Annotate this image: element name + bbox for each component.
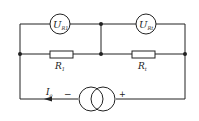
- junction-dot: [99, 22, 103, 26]
- wire-top-right: [156, 24, 185, 54]
- svg-text:R1: R1: [54, 61, 65, 72]
- resistor-rt: [132, 51, 155, 58]
- wire-right-bottom: [116, 54, 185, 99]
- svg-text:UR1: UR1: [53, 19, 68, 31]
- minus-sign: −: [64, 89, 72, 99]
- junction-dot: [99, 52, 103, 56]
- svg-text:Io: Io: [45, 87, 53, 98]
- junction-dot: [18, 52, 22, 56]
- resistor-r1: [50, 51, 73, 58]
- wire-top-left: [20, 24, 50, 54]
- svg-text:URt: URt: [139, 19, 154, 31]
- plus-sign: +: [119, 90, 126, 99]
- svg-text:Rt: Rt: [137, 61, 148, 72]
- junction-dot: [183, 52, 187, 56]
- circuit-diagram: UR1 URt R1 Rt Io − +: [0, 0, 199, 121]
